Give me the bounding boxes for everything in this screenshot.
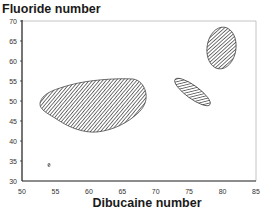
y-tick-label: 50 <box>9 98 17 105</box>
x-ticks: 50 55 60 65 70 75 80 85 <box>18 188 260 195</box>
x-axis-title: Dibucaine number <box>0 196 264 210</box>
x-tick-label: 60 <box>85 188 93 195</box>
x-tick-label: 75 <box>185 188 193 195</box>
x-tick-label: 70 <box>152 188 160 195</box>
x-tick-label: 80 <box>219 188 227 195</box>
y-ticks: 70 65 60 55 50 45 40 35 30 <box>9 18 22 185</box>
x-tick-label: 55 <box>52 188 60 195</box>
middle-hatched-region <box>171 74 213 110</box>
y-tick-label: 65 <box>9 38 17 45</box>
y-tick-label: 55 <box>9 78 17 85</box>
x-tick-label: 85 <box>252 188 260 195</box>
y-tick-label: 40 <box>9 138 17 145</box>
upper-right-hatched-region <box>204 25 239 71</box>
x-tick-label: 50 <box>18 188 26 195</box>
single-point-marker <box>48 163 50 167</box>
y-tick-label: 60 <box>9 58 17 65</box>
chart-plot: 70 65 60 55 50 45 40 35 30 50 55 60 65 7… <box>0 0 264 214</box>
x-tick-label: 65 <box>118 188 126 195</box>
y-tick-label: 70 <box>9 18 17 25</box>
y-tick-label: 35 <box>9 158 17 165</box>
y-tick-label: 30 <box>9 178 17 185</box>
large-hatched-region <box>40 79 146 132</box>
y-tick-label: 45 <box>9 118 17 125</box>
